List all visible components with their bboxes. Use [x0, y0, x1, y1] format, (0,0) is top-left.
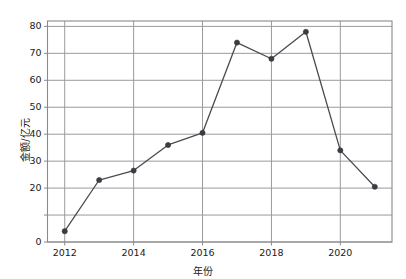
plot-area — [0, 0, 406, 279]
data-point-markers — [62, 29, 377, 234]
data-line — [65, 32, 375, 231]
line-chart-figure: 金额/亿元 年份 020304050607080 201220142016201… — [0, 0, 406, 279]
horizontal-gridlines — [44, 26, 392, 242]
